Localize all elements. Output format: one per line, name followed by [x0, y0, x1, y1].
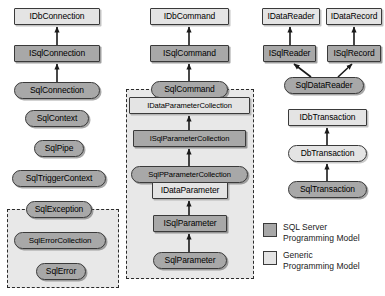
class-node-sqlerrorcollection[interactable]: SqlErrorCollection — [14, 232, 106, 249]
class-node-idataparametercollection[interactable]: IDataParameterCollection — [129, 97, 250, 114]
legend-label-sql-server: SQL Server Programming Model — [283, 222, 360, 243]
legend-swatch-generic — [263, 251, 277, 265]
arrow-sqldatareader-to-isqlrecord — [338, 64, 352, 77]
class-node-sqlerror[interactable]: SqlError — [36, 263, 86, 280]
class-node-isqlparameter[interactable]: ISqlParameter — [153, 215, 227, 232]
class-node-isqlreader[interactable]: ISqlReader — [263, 45, 316, 62]
class-node-idbtransaction[interactable]: IDbTransaction — [288, 109, 367, 126]
class-node-idatareader[interactable]: IDataReader — [262, 8, 320, 25]
class-node-isqlconnection[interactable]: ISqlConnection — [14, 45, 100, 62]
legend-swatch-sql-server — [263, 223, 277, 237]
class-node-sqltriggercontext[interactable]: SqlTriggerContext — [12, 170, 106, 187]
class-diagram-canvas: IDbConnectionISqlConnectionSqlConnection… — [0, 0, 385, 296]
legend-label-generic: Generic Programming Model — [283, 250, 360, 271]
class-node-sqlconnection[interactable]: SqlConnection — [14, 82, 100, 99]
legend: SQL Server Programming ModelGeneric Prog… — [263, 222, 360, 278]
class-node-isqlrecord[interactable]: ISqlRecord — [327, 45, 381, 62]
class-node-sqlpparametercollection[interactable]: SqlPParameterCollection — [131, 166, 248, 183]
class-node-sqlcontext[interactable]: SqlContext — [25, 110, 89, 127]
class-node-sqlexception[interactable]: SqlException — [26, 201, 92, 218]
class-node-sqlpipe[interactable]: SqlPipe — [34, 140, 84, 157]
class-node-sqldatareader[interactable]: SqlDataReader — [284, 77, 364, 94]
class-node-isqlcommand[interactable]: ISqlCommand — [150, 45, 229, 62]
class-node-isqlparametercollection[interactable]: ISqlParameterCollection — [133, 130, 246, 147]
class-node-idataparameter[interactable]: IDataParameter — [152, 182, 228, 199]
legend-item-generic: Generic Programming Model — [263, 250, 360, 271]
class-node-sqltransaction[interactable]: SqlTransaction — [288, 181, 367, 198]
legend-item-sql-server: SQL Server Programming Model — [263, 222, 360, 243]
class-node-idbcommand[interactable]: IDbCommand — [150, 8, 229, 25]
class-node-sqlcommand[interactable]: SqlCommand — [151, 81, 228, 98]
arrow-sqldatareader-to-isqlreader — [294, 64, 311, 77]
class-node-dbtransaction[interactable]: DbTransaction — [288, 145, 367, 162]
class-node-idbconnection[interactable]: IDbConnection — [14, 8, 100, 25]
class-node-idatarecord[interactable]: IDataRecord — [326, 8, 382, 25]
class-node-sqlparameter[interactable]: SqlParameter — [153, 252, 227, 269]
